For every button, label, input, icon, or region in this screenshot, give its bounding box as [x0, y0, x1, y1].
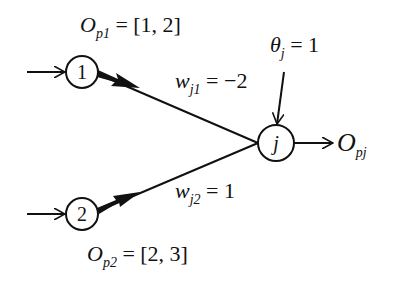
- wj1-label: wj1 = −2: [175, 70, 247, 92]
- neural-network-diagram: [0, 0, 395, 284]
- op1-label: Op1 = [1, 2]: [80, 14, 181, 36]
- node-2-label: 2: [66, 204, 98, 224]
- node-1-label: 1: [66, 62, 98, 82]
- node-j-label: j: [260, 133, 292, 153]
- wj2-label: wj2 = 1: [175, 180, 235, 202]
- opj-label: Opj: [337, 130, 367, 156]
- thick-arrow-1-icon: [97, 70, 140, 88]
- theta-arrow: [277, 72, 284, 124]
- op2-label: Op2 = [2, 3]: [87, 243, 188, 265]
- theta-label: θj = 1: [270, 34, 319, 56]
